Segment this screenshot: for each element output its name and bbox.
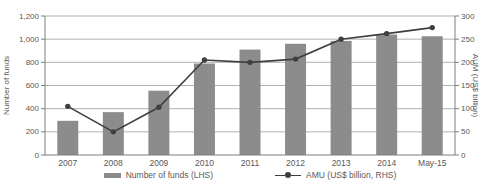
x-label-2014: 2014 — [377, 158, 396, 168]
right-tick-label: 50 — [461, 127, 470, 136]
bar-2014 — [376, 35, 397, 155]
legend-item-funds: Number of funds (LHS) — [104, 170, 213, 180]
bar-2010 — [194, 63, 215, 155]
left-tick-label: 400 — [26, 104, 40, 113]
legend-item-aum: AMU (US$ billion, RHS) — [275, 170, 396, 180]
x-label-2011: 2011 — [241, 158, 260, 168]
combo-chart: 02004006008001,0001,20005010015020025030… — [0, 0, 480, 191]
x-label-2007: 2007 — [58, 158, 77, 168]
aum-point-2009 — [156, 105, 161, 110]
aum-point-2014 — [384, 31, 389, 36]
bar-May-15 — [422, 36, 443, 155]
x-label-2010: 2010 — [195, 158, 214, 168]
right-axis-title: AUM (US$ billion) — [471, 54, 480, 118]
aum-point-2008 — [111, 129, 116, 134]
bar-2013 — [331, 41, 352, 155]
bar-2007 — [57, 121, 78, 155]
left-tick-label: 200 — [26, 127, 40, 136]
x-label-2008: 2008 — [104, 158, 123, 168]
right-tick-label: 0 — [461, 151, 466, 160]
aum-point-2013 — [338, 36, 343, 41]
right-tick-label: 300 — [461, 12, 475, 21]
x-label-2013: 2013 — [332, 158, 351, 168]
aum-point-2010 — [202, 57, 207, 62]
left-axis-title: Number of funds — [2, 56, 11, 115]
aum-point-May-15 — [430, 25, 435, 30]
right-tick-label: 250 — [461, 35, 475, 44]
left-tick-label: 1,000 — [19, 35, 40, 44]
x-label-2009: 2009 — [149, 158, 168, 168]
legend: Number of funds (LHS) AMU (US$ billion, … — [45, 170, 455, 180]
line-marker-icon — [275, 172, 301, 179]
aum-point-2007 — [65, 104, 70, 109]
left-tick-label: 600 — [26, 81, 40, 90]
left-tick-label: 1,200 — [19, 12, 40, 21]
aum-point-2011 — [247, 60, 252, 65]
x-label-2012: 2012 — [286, 158, 305, 168]
bar-2011 — [240, 50, 261, 155]
plot-area: 02004006008001,0001,20005010015020025030… — [0, 0, 480, 170]
line-legend-label: AMU (US$ billion, RHS) — [306, 170, 396, 180]
x-label-May-15: May-15 — [418, 158, 447, 168]
aum-point-2012 — [293, 56, 298, 61]
left-tick-label: 800 — [26, 58, 40, 67]
left-tick-label: 0 — [35, 151, 40, 160]
bar-swatch-icon — [104, 173, 121, 178]
bar-legend-label: Number of funds (LHS) — [126, 170, 213, 180]
